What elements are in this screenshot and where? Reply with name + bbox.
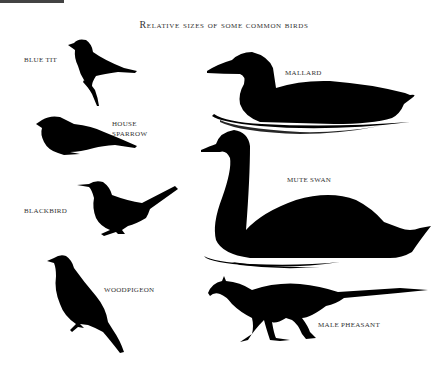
blackbird-silhouette <box>77 181 178 236</box>
blue-tit-silhouette <box>68 39 137 106</box>
bird-silhouettes <box>0 0 448 371</box>
label-sparrow: Sparrow <box>112 129 147 139</box>
woodpigeon-silhouette <box>47 255 124 353</box>
mute-swan-silhouette <box>201 130 431 268</box>
label-blue-tit: Blue tit <box>24 55 57 65</box>
label-mallard: Mallard <box>285 68 322 78</box>
label-blackbird: Blackbird <box>24 206 67 216</box>
mallard-silhouette <box>207 52 418 134</box>
male-pheasant-silhouette <box>208 276 428 342</box>
label-mute-swan: Mute swan <box>287 175 331 185</box>
label-woodpigeon: Woodpigeon <box>104 285 154 295</box>
label-male-pheasant: Male pheasant <box>318 320 380 330</box>
label-house: House <box>112 119 137 129</box>
